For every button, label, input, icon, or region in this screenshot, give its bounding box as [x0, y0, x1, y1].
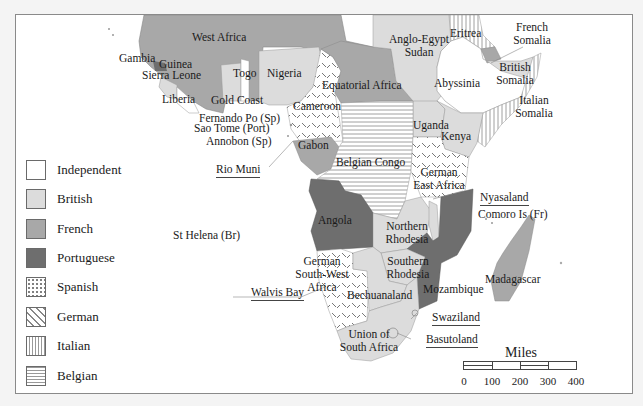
label-mozambique: Mozambique [423, 283, 484, 296]
legend-item-italian: Italian [26, 336, 186, 358]
label-nigeria: Nigeria [267, 67, 301, 80]
label-liberia: Liberia [162, 93, 195, 106]
swatch-british [26, 189, 46, 209]
scale-tick-100: 100 [484, 375, 501, 387]
label-belgian-congo: Belgian Congo [336, 156, 405, 169]
label-gambia: Gambia [119, 52, 155, 65]
label-walvis-bay: Walvis Bay [251, 286, 304, 301]
label-gold-coast: Gold Coast [211, 94, 263, 107]
label-italian-somalia: Italian Somalia [504, 94, 564, 120]
label-rio-muni: Rio Muni [216, 163, 260, 178]
scale-tick-300: 300 [540, 375, 557, 387]
swatch-spanish [26, 277, 46, 297]
label-anglo-egypt-sudan: Anglo-Egypt Sudan [379, 33, 459, 59]
label-british-somalia: British Somalia [486, 61, 544, 87]
scale-tick-0: 0 [461, 375, 467, 387]
label-sierra-leone: Sierra Leone [142, 69, 201, 82]
label-angola: Angola [318, 214, 352, 227]
label-union-of-south-africa: Union of South Africa [338, 328, 400, 354]
label-bechuanaland: Bechuanaland [347, 289, 412, 302]
legend-item-german: German [26, 307, 186, 329]
swatch-belgian [26, 366, 46, 386]
legend-item-spanish: Spanish [26, 277, 186, 299]
label-eritrea: Eritrea [450, 27, 481, 40]
label-west-africa: West Africa [192, 31, 246, 44]
swatch-french [26, 219, 46, 239]
label-german-east-africa: German East Africa [406, 166, 472, 192]
legend-item-independent: Independent [26, 160, 186, 182]
label-nyasaland: Nyasaland [480, 191, 529, 206]
label-annobon: Annobon (Sp) [206, 135, 272, 148]
swatch-italian [26, 336, 46, 356]
legend-item-british: British [26, 189, 186, 211]
label-northern-rhodesia: Northern Rhodesia [376, 220, 438, 246]
label-comoro-is: Comoro Is (Fr) [478, 208, 548, 221]
swatch-german [26, 307, 46, 327]
scale-tick-400: 400 [568, 375, 585, 387]
label-kenya: Kenya [441, 130, 471, 143]
label-abyssinia: Abyssinia [434, 77, 480, 90]
label-cameroon: Cameroon [293, 100, 341, 113]
legend-item-portuguese: Portuguese [26, 248, 186, 270]
label-sao-tome: Sao Tome (Port) [194, 122, 270, 135]
label-french-somalia: French Somalia [502, 21, 562, 47]
label-togo: Togo [233, 67, 256, 80]
scale-title: Miles [462, 345, 580, 361]
scale-bar-graphic [463, 361, 577, 370]
label-equatorial-africa: Equatorial Africa [322, 79, 402, 92]
legend-item-french: French [26, 219, 186, 241]
scale-tick-200: 200 [512, 375, 529, 387]
label-southern-rhodesia: Southern Rhodesia [378, 255, 438, 281]
label-gabon: Gabon [298, 139, 329, 152]
label-madagascar: Madagascar [485, 273, 541, 286]
scale-bar: Miles 0 100 200 300 400 [462, 345, 592, 390]
region-madagascar [491, 215, 535, 301]
label-swaziland: Swaziland [432, 311, 480, 326]
legend-item-belgian: Belgian [26, 366, 186, 388]
swatch-portuguese [26, 248, 46, 268]
swatch-independent [26, 160, 46, 180]
